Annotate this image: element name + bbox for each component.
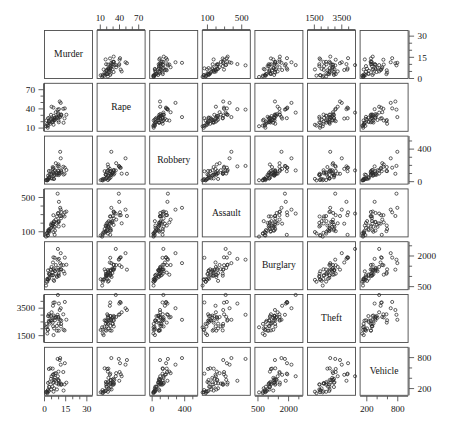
splom-cell-vehicle-murder xyxy=(45,347,93,395)
tick-label: 30 xyxy=(82,404,92,414)
splom-cell-assault-burglary xyxy=(255,189,303,238)
splom-cell-assault-robbery xyxy=(150,189,198,238)
splom-cell-rape-robbery xyxy=(150,83,198,131)
tick-label: 500 xyxy=(251,404,265,414)
axis-assault-left: 100500 xyxy=(21,189,43,237)
tick-label: 200 xyxy=(418,384,432,394)
splom-cell-assault-rape xyxy=(97,189,145,238)
tick-label: 10 xyxy=(26,123,36,133)
tick-label: 500 xyxy=(235,13,249,23)
axis-assault-top: 100500 xyxy=(201,13,251,30)
splom-cell-murder-burglary xyxy=(255,31,303,79)
splom-cell-robbery-theft xyxy=(308,136,357,184)
splom-cell-theft-robbery xyxy=(150,293,198,342)
splom-cell-burglary-assault xyxy=(201,242,250,290)
splom-cell-murder-theft xyxy=(308,31,357,79)
panel-frame xyxy=(255,136,303,184)
splom-cell-vehicle-burglary xyxy=(255,347,303,395)
splom-cell-robbery-robbery: Robbery xyxy=(150,136,198,184)
axis-vehicle-right: 200800 xyxy=(409,347,432,395)
tick-label: 0 xyxy=(42,404,47,414)
splom-cell-murder-rape xyxy=(97,31,145,79)
axis-burglary-right: 5002000 xyxy=(409,242,436,292)
splom-cell-burglary-theft xyxy=(308,242,357,290)
splom-cell-rape-murder xyxy=(45,83,93,131)
splom-cell-rape-vehicle xyxy=(360,83,408,131)
tick-label: 70 xyxy=(134,13,144,23)
tick-label: 0 xyxy=(418,74,423,84)
tick-label: 1500 xyxy=(305,13,324,23)
tick-label: 100 xyxy=(201,13,215,23)
panel-frame xyxy=(360,295,408,343)
tick-label: 70 xyxy=(26,85,36,95)
splom-cell-assault-assault: Assault xyxy=(202,189,250,237)
splom-cell-theft-vehicle xyxy=(360,293,408,342)
axis-vehicle-bottom: 200800 xyxy=(360,396,408,414)
splom-cell-rape-theft xyxy=(308,83,357,131)
splom-cell-rape-rape: Rape xyxy=(97,83,145,131)
splom-cell-theft-burglary xyxy=(255,293,303,342)
tick-label: 3500 xyxy=(333,13,352,23)
panel-frame xyxy=(97,136,145,184)
panel-frame xyxy=(150,242,198,290)
tick-label: 100 xyxy=(21,227,35,237)
tick-label: 3500 xyxy=(17,303,36,313)
axis-robbery-bottom: 0400 xyxy=(150,396,198,414)
axis-theft-left: 15003500 xyxy=(17,295,44,343)
splom-cell-burglary-murder xyxy=(45,242,93,290)
panel-frame xyxy=(150,83,198,131)
splom-cell-murder-murder: Murder xyxy=(45,31,93,79)
diagonal-variable-label: Vehicle xyxy=(370,365,399,376)
tick-label: 500 xyxy=(21,193,35,203)
splom-cell-robbery-assault xyxy=(201,136,250,184)
splom-cell-assault-vehicle xyxy=(360,189,408,238)
splom-cell-murder-vehicle xyxy=(360,31,408,79)
axis-murder-right: 01530 xyxy=(409,31,427,84)
tick-label: 10 xyxy=(96,13,106,23)
axis-theft-top: 15003500 xyxy=(305,13,355,30)
axis-rape-top: 104070 xyxy=(96,13,145,30)
splom-cell-theft-assault xyxy=(201,293,250,342)
splom-cell-murder-assault xyxy=(201,31,250,79)
tick-label: 1500 xyxy=(17,331,36,341)
tick-label: 40 xyxy=(26,104,36,114)
splom-cell-burglary-rape xyxy=(97,242,145,290)
splom-cell-murder-robbery xyxy=(150,31,198,79)
tick-label: 15 xyxy=(418,53,428,63)
tick-label: 30 xyxy=(418,31,428,41)
diagonal-variable-label: Theft xyxy=(321,312,342,323)
tick-label: 800 xyxy=(391,404,405,414)
panel-frame xyxy=(308,347,356,395)
splom-cell-theft-murder xyxy=(45,293,93,342)
tick-label: 15 xyxy=(61,404,71,414)
tick-label: 2000 xyxy=(418,251,437,261)
tick-label: 40 xyxy=(115,13,125,23)
splom-cell-robbery-burglary xyxy=(255,136,303,184)
splom-cell-vehicle-vehicle: Vehicle xyxy=(360,347,408,395)
splom-cell-robbery-rape xyxy=(97,136,145,184)
splom-cell-theft-theft: Theft xyxy=(308,295,356,343)
diagonal-variable-label: Robbery xyxy=(157,154,190,165)
diagonal-variable-label: Burglary xyxy=(262,259,296,270)
splom-cell-rape-burglary xyxy=(255,83,303,131)
panel-frame xyxy=(308,136,356,184)
splom-cell-vehicle-rape xyxy=(97,347,145,395)
tick-label: 0 xyxy=(418,177,423,187)
axis-burglary-bottom: 5002000 xyxy=(251,396,303,414)
splom-cell-burglary-robbery xyxy=(150,242,198,290)
tick-label: 400 xyxy=(178,404,192,414)
splom-cell-vehicle-theft xyxy=(308,347,357,395)
panel-frame xyxy=(150,295,198,343)
splom-cell-rape-assault xyxy=(201,83,250,131)
tick-label: 200 xyxy=(360,404,374,414)
splom-cell-theft-rape xyxy=(97,293,145,342)
diagonal-variable-label: Assault xyxy=(212,207,241,218)
splom-cell-vehicle-assault xyxy=(201,347,250,395)
splom-cell-burglary-burglary: Burglary xyxy=(255,242,303,290)
diagonal-variable-label: Rape xyxy=(111,101,131,112)
tick-label: 500 xyxy=(418,282,432,292)
diagonal-variable-label: Murder xyxy=(54,48,84,59)
tick-label: 0 xyxy=(150,404,155,414)
tick-label: 400 xyxy=(418,144,432,154)
scatterplot-matrix: MurderRapeRobberyAssaultBurglaryTheftVeh… xyxy=(0,0,455,437)
